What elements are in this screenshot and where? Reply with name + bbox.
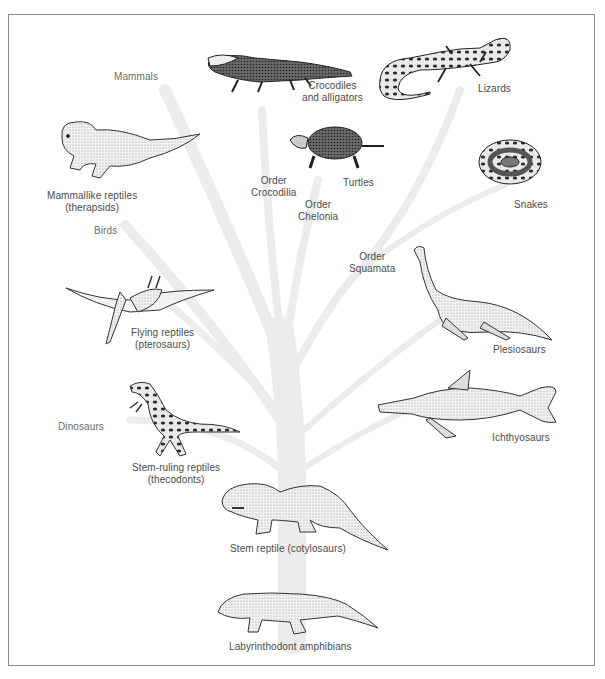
labyrinthodont-illustration bbox=[218, 593, 378, 634]
label-cotylosaurs: Stem reptile (cotylosaurs) bbox=[230, 543, 346, 555]
label-crocodiles: Crocodiles and alligators bbox=[302, 80, 363, 103]
thecodont-illustration bbox=[130, 382, 240, 456]
ichthyosaur-illustration bbox=[378, 370, 556, 438]
label-snakes: Snakes bbox=[514, 199, 548, 211]
label-ichthyosaurs: Ichthyosaurs bbox=[492, 432, 550, 444]
label-plesiosaurs: Plesiosaurs bbox=[493, 344, 546, 356]
plesiosaur-illustration bbox=[414, 246, 552, 340]
label-order-squamata: Order Squamata bbox=[349, 251, 395, 274]
therapsid-illustration bbox=[62, 122, 200, 178]
label-amphibians: Labyrinthodont amphibians bbox=[229, 641, 352, 653]
label-birds: Birds bbox=[94, 225, 117, 237]
cotylosaur-illustration bbox=[222, 484, 388, 550]
label-pterosaurs: Flying reptiles (pterosaurs) bbox=[131, 327, 194, 350]
turtle-illustration bbox=[290, 127, 384, 168]
label-order-crocodilia: Order Crocodilia bbox=[251, 175, 296, 198]
label-dinosaurs: Dinosaurs bbox=[58, 421, 104, 433]
label-lizards: Lizards bbox=[478, 83, 511, 95]
label-order-chelonia: Order Chelonia bbox=[298, 199, 338, 222]
label-thecodonts: Stem-ruling reptiles (thecodonts) bbox=[132, 462, 220, 485]
label-turtles: Turtles bbox=[343, 177, 374, 189]
snake-illustration bbox=[479, 140, 541, 184]
label-mammals: Mammals bbox=[114, 71, 158, 83]
label-therapsids: Mammallike reptiles (therapsids) bbox=[47, 190, 137, 213]
